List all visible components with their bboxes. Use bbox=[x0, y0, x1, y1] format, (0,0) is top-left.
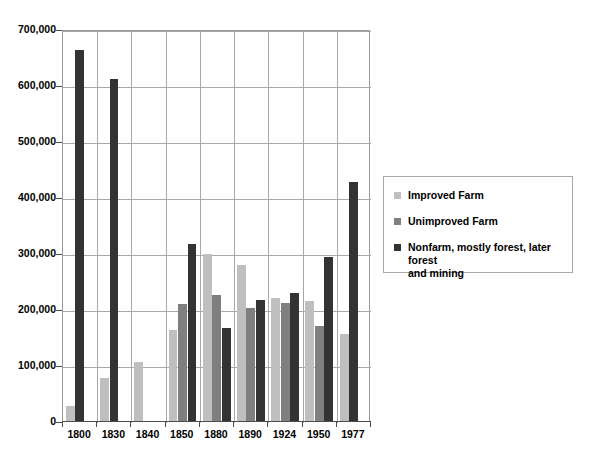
bar bbox=[281, 303, 290, 422]
bar bbox=[237, 265, 246, 422]
x-axis-tick-label: 1977 bbox=[333, 428, 373, 440]
y-axis-tick-mark bbox=[56, 30, 62, 31]
y-axis-tick-label: 600,000 bbox=[2, 80, 56, 91]
bar bbox=[100, 378, 109, 422]
bar bbox=[305, 301, 314, 422]
bar bbox=[203, 254, 212, 422]
legend-item[interactable]: Improved Farm bbox=[394, 189, 568, 202]
y-axis-tick-mark bbox=[56, 310, 62, 311]
gridline-vertical bbox=[97, 31, 98, 423]
gridline-vertical bbox=[234, 31, 235, 423]
bar bbox=[212, 295, 221, 422]
legend-item[interactable]: Unimproved Farm bbox=[394, 215, 568, 228]
bar bbox=[271, 298, 280, 422]
bar bbox=[349, 182, 358, 422]
y-axis-tick-label: 500,000 bbox=[2, 136, 56, 147]
x-axis-tick-mark bbox=[199, 422, 200, 427]
x-axis-tick-mark bbox=[96, 422, 97, 427]
y-axis-tick-mark bbox=[56, 86, 62, 87]
bar bbox=[324, 257, 333, 422]
chart-legend: Improved FarmUnimproved FarmNonfarm, mos… bbox=[383, 176, 573, 273]
y-axis-tick-label: 100,000 bbox=[2, 360, 56, 371]
bar bbox=[340, 334, 349, 422]
x-axis-tick-mark bbox=[302, 422, 303, 427]
y-axis: 0100,000200,000300,000400,000500,000600,… bbox=[0, 0, 56, 463]
bar bbox=[178, 304, 187, 422]
legend-item-label: Unimproved Farm bbox=[408, 215, 568, 228]
bar bbox=[66, 406, 75, 422]
x-axis-tick-mark bbox=[267, 422, 268, 427]
x-axis-line bbox=[62, 421, 371, 422]
gridline-horizontal bbox=[63, 31, 371, 32]
legend-swatch-icon bbox=[394, 218, 401, 225]
legend-item[interactable]: Nonfarm, mostly forest, later forestand … bbox=[394, 241, 568, 280]
x-axis-tick-mark bbox=[165, 422, 166, 427]
gridline-vertical bbox=[166, 31, 167, 423]
y-axis-tick-mark bbox=[56, 366, 62, 367]
bar bbox=[75, 50, 84, 422]
x-axis-tick-mark bbox=[370, 422, 371, 427]
gridline-vertical bbox=[131, 31, 132, 423]
gridline-vertical bbox=[337, 31, 338, 423]
gridline-vertical bbox=[303, 31, 304, 423]
bar-chart: 0100,000200,000300,000400,000500,000600,… bbox=[0, 0, 594, 463]
bar bbox=[110, 79, 119, 422]
bar bbox=[290, 293, 299, 422]
gridline-vertical bbox=[200, 31, 201, 423]
gridline-vertical bbox=[268, 31, 269, 423]
bar bbox=[134, 362, 143, 422]
legend-item-label: Nonfarm, mostly forest, later forestand … bbox=[408, 241, 568, 280]
y-axis-tick-label: 400,000 bbox=[2, 192, 56, 203]
bar bbox=[222, 328, 231, 422]
legend-swatch-icon bbox=[394, 192, 401, 199]
y-axis-tick-label: 700,000 bbox=[2, 24, 56, 35]
legend-item-label: Improved Farm bbox=[408, 189, 568, 202]
x-axis-tick-mark bbox=[62, 422, 63, 427]
y-axis-tick-label: 300,000 bbox=[2, 248, 56, 259]
y-axis-tick-mark bbox=[56, 198, 62, 199]
x-axis-tick-mark bbox=[233, 422, 234, 427]
bar bbox=[169, 330, 178, 422]
x-axis-tick-mark bbox=[336, 422, 337, 427]
bar bbox=[188, 244, 197, 422]
y-axis-tick-mark bbox=[56, 254, 62, 255]
bar bbox=[256, 300, 265, 422]
legend-swatch-icon bbox=[394, 244, 401, 251]
y-axis-tick-mark bbox=[56, 142, 62, 143]
y-axis-tick-label: 0 bbox=[2, 416, 56, 427]
y-axis-tick-label: 200,000 bbox=[2, 304, 56, 315]
bar bbox=[246, 308, 255, 422]
x-axis-tick-mark bbox=[130, 422, 131, 427]
bar bbox=[315, 326, 324, 422]
plot-area bbox=[62, 30, 370, 422]
